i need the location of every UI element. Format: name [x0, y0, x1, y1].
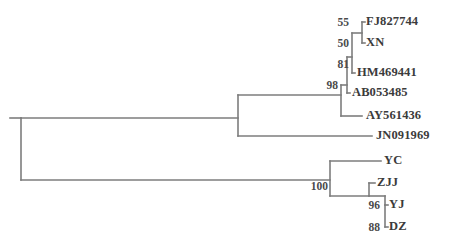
- taxon-label-fj827744: FJ827744: [366, 15, 418, 28]
- tree-branches: [0, 0, 460, 250]
- taxon-label-ab053485: AB053485: [352, 86, 408, 99]
- taxon-label-xn: XN: [366, 36, 384, 49]
- support-value-55: 55: [329, 17, 349, 29]
- taxon-label-hm469441: HM469441: [357, 66, 417, 79]
- taxon-label-yj: YJ: [389, 198, 404, 211]
- support-value-50: 50: [329, 38, 349, 50]
- taxon-label-ay561436: AY561436: [366, 109, 421, 122]
- taxon-label-jn091969: JN091969: [376, 129, 430, 142]
- phylogenetic-tree-figure: FJ827744 XN HM469441 AB053485 AY561436 J…: [0, 0, 460, 250]
- support-value-100: 100: [302, 181, 328, 193]
- taxon-label-dz: DZ: [389, 220, 407, 233]
- taxon-label-yc: YC: [384, 154, 402, 167]
- taxon-label-zjj: ZJJ: [377, 176, 398, 189]
- support-value-81: 81: [329, 59, 349, 71]
- support-value-96: 96: [360, 200, 380, 212]
- support-value-88: 88: [360, 222, 380, 234]
- support-value-98: 98: [318, 80, 338, 92]
